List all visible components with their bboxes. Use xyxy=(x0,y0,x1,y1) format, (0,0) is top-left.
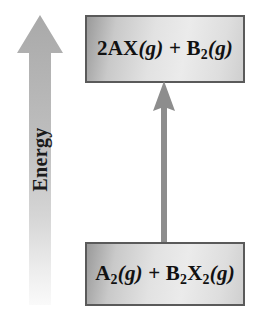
products-plus: + xyxy=(169,36,181,60)
products-phase-2: (g) xyxy=(208,36,233,60)
products-state-box: 2AX(g) + B2(g) xyxy=(85,15,245,83)
reactants-phase-2: (g) xyxy=(210,261,235,285)
reactants-phase-1: (g) xyxy=(118,261,143,285)
reactants-subscript-2b: 2 xyxy=(203,271,210,286)
up-arrow-icon xyxy=(153,81,175,244)
reactants-species-2: B xyxy=(166,261,180,285)
reactants-plus: + xyxy=(148,261,160,285)
reactants-state-box: A2(g) + B2X2(g) xyxy=(85,242,245,306)
reaction-arrow xyxy=(148,80,180,244)
products-phase-1: (g) xyxy=(138,36,163,60)
reactants-species-1: A xyxy=(95,261,110,285)
reactants-subscript-1: 2 xyxy=(111,271,118,286)
products-formula: 2AX(g) + B2(g) xyxy=(97,36,233,63)
products-subscript-2: 2 xyxy=(201,46,208,61)
energy-axis-arrow xyxy=(12,13,68,305)
energy-diagram: Energy 2AX(g) + B2(g) A2(g) + B2X2(g) xyxy=(0,0,262,312)
products-coefficient: 2AX xyxy=(97,36,138,60)
products-species-2: B xyxy=(187,36,201,60)
up-arrow-icon xyxy=(17,15,63,305)
reactants-species-3: X xyxy=(187,261,202,285)
reactants-formula: A2(g) + B2X2(g) xyxy=(95,261,235,288)
